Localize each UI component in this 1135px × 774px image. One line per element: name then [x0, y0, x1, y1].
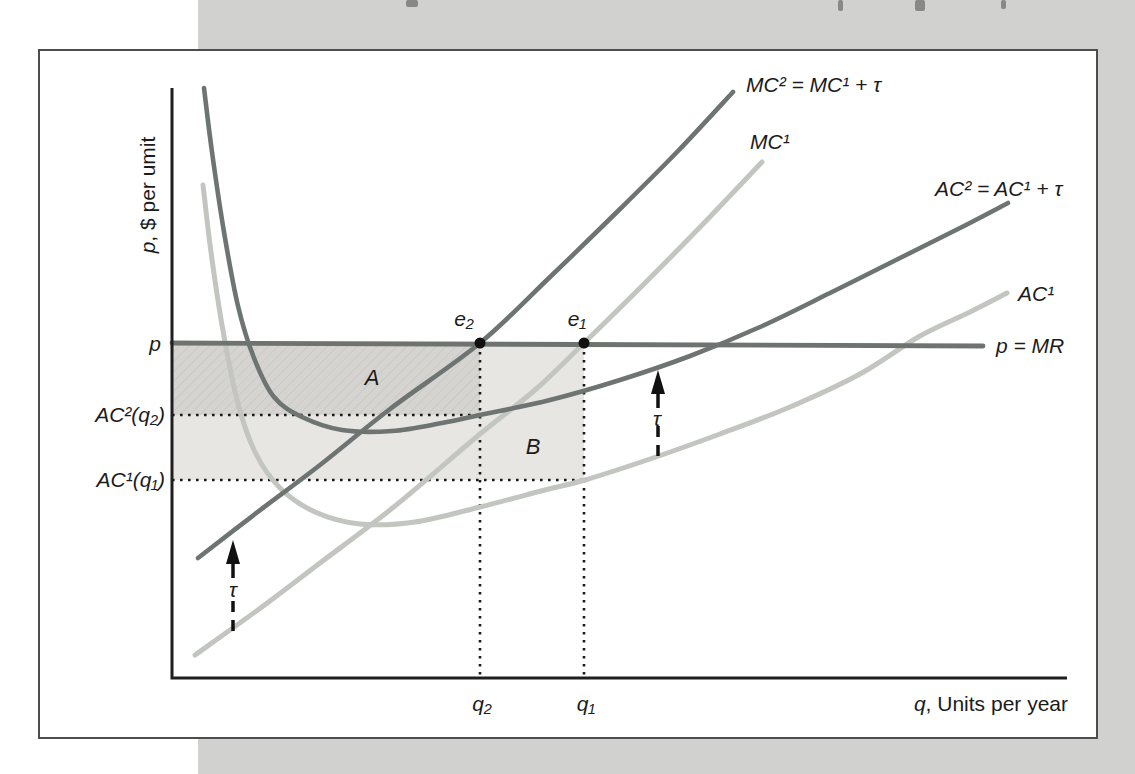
y-axis-var: p	[136, 242, 159, 254]
x-axis-var: q	[914, 692, 926, 715]
x-axis-rest: , Units per year	[926, 692, 1068, 715]
e1-point-label: e₁	[568, 308, 586, 329]
equilibrium-dot-e2	[475, 338, 486, 349]
region-b-label: B	[526, 436, 541, 458]
plot-svg	[0, 0, 1135, 774]
page: p, $ per umit q, Units per year p AC²(q₂…	[0, 0, 1135, 774]
ac1-curve-label: AC¹	[1018, 283, 1054, 304]
tau-label-right: τ	[653, 408, 661, 429]
ac2-at-q2-label: AC²(q₂)	[95, 404, 165, 425]
y-axis-rest: , $ per umit	[136, 137, 159, 242]
equilibrium-dot-e1	[579, 338, 590, 349]
x-axis-label: q, Units per year	[914, 693, 1068, 714]
mc1-curve-label: MC¹	[750, 131, 790, 152]
q1-tick-label: q₁	[577, 693, 595, 714]
tau-arrow-left-head	[226, 540, 240, 564]
tau-label-left: τ	[229, 579, 237, 600]
ac2-curve-label: AC² = AC¹ + τ	[935, 178, 1062, 199]
e2-point-label: e₂	[454, 308, 474, 329]
y-axis-label: p, $ per umit	[137, 137, 158, 254]
price-level-label: p	[149, 333, 161, 354]
q2-tick-label: q₂	[472, 693, 492, 714]
ac1-at-q1-label: AC¹(q₁)	[97, 469, 165, 490]
price-line-label: p = MR	[996, 335, 1064, 356]
region-a-label: A	[365, 367, 380, 389]
mc2-curve-label: MC² = MC¹ + τ	[746, 74, 881, 95]
curve-price	[172, 343, 983, 346]
tau-arrow-right-head	[651, 370, 665, 394]
